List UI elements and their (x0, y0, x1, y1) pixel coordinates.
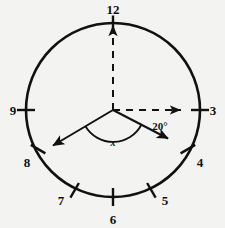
hour-label-8: 8 (24, 155, 31, 170)
clock-angle-diagram: 12 3 4 5 6 7 8 9 20° x (0, 0, 225, 228)
dashed-reference-rays (113, 25, 181, 110)
hour-label-9: 9 (10, 103, 17, 118)
hour-label-3: 3 (210, 103, 217, 118)
hour-label-7: 7 (58, 193, 65, 208)
hour-label-12: 12 (107, 2, 120, 17)
angle-label-x: x (110, 137, 116, 148)
angle-label-20-degrees: 20° (152, 120, 167, 132)
hour-label-4: 4 (197, 155, 204, 170)
diagram-canvas: 12 3 4 5 6 7 8 9 20° x (0, 0, 225, 228)
hour-label-5: 5 (162, 193, 169, 208)
hour-label-6: 6 (110, 212, 117, 227)
